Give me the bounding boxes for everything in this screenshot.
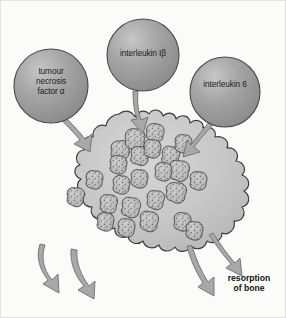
nucleus: [121, 197, 140, 218]
nucleus: [67, 188, 85, 207]
figure-container: tumour necrosis factor α interleukin Iβ …: [0, 0, 286, 318]
nucleus: [186, 222, 203, 241]
arrow-resorption-4: [209, 233, 242, 276]
nucleus: [100, 195, 118, 214]
nucleus: [155, 163, 172, 182]
nucleus: [140, 211, 159, 232]
arrow-resorption-1: [38, 244, 59, 293]
nucleus: [166, 183, 187, 204]
arrow-resorption-2: [71, 249, 95, 299]
cytokine-circle-interleukin-1-beta[interactable]: [107, 19, 179, 91]
osteoclast-diagram: [1, 1, 286, 318]
arrow-resorption-3: [187, 246, 214, 296]
nucleus: [118, 219, 135, 238]
nucleus: [113, 176, 130, 195]
nucleus: [131, 170, 148, 189]
nucleus: [147, 191, 165, 210]
cytokine-circle-tnf-alpha[interactable]: [14, 49, 88, 123]
nucleus: [97, 213, 114, 232]
resorption-of-bone-label: resorption of bone: [213, 273, 285, 294]
nucleus: [190, 172, 207, 191]
nucleus: [86, 171, 103, 190]
cytokine-circle-interleukin-6[interactable]: [190, 57, 260, 127]
nucleus: [110, 156, 127, 175]
nucleus: [144, 140, 161, 159]
